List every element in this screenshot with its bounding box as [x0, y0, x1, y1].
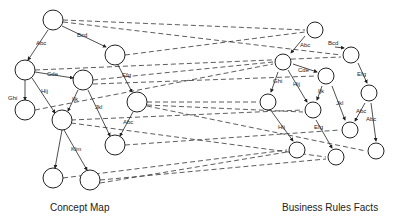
- fact-node[interactable]: [260, 94, 276, 110]
- fact-node[interactable]: [318, 68, 334, 84]
- fact-node[interactable]: [275, 54, 291, 70]
- edge-label: Abc: [123, 119, 133, 125]
- cross-links: [35, 20, 366, 183]
- edge-label: Efg: [122, 72, 131, 78]
- diagram-canvas: Abc Bcd Cde Efg Ghi Hij Ijk Jkl Abc Klm: [0, 0, 395, 222]
- fact-node[interactable]: [361, 85, 377, 101]
- edge-label: Efg: [357, 71, 366, 77]
- concept-map-caption: Concept Map: [50, 202, 109, 213]
- fact-node[interactable]: [343, 47, 359, 63]
- edge-label: Abc: [366, 116, 376, 122]
- concept-node[interactable]: [105, 135, 125, 155]
- concept-node[interactable]: [43, 10, 63, 30]
- edge-label: Cde: [298, 67, 310, 73]
- business-rules-facts-caption: Business Rules Facts: [282, 202, 378, 213]
- edge-label: Hij: [293, 81, 300, 87]
- edge-label: Hij: [278, 124, 285, 130]
- edge-label: Ghi: [8, 95, 17, 101]
- edge-label: Klm: [71, 146, 81, 152]
- fact-node[interactable]: [305, 102, 321, 118]
- fact-node[interactable]: [307, 22, 323, 38]
- edge-label: Jkl: [95, 104, 102, 110]
- edge-label: Abc: [300, 42, 310, 48]
- edge-label: Efg: [314, 124, 323, 130]
- concept-node[interactable]: [105, 45, 125, 65]
- edge-label: Bcd: [328, 40, 338, 46]
- edge-label: Abc: [356, 108, 366, 114]
- edge-label: Jkl: [336, 100, 343, 106]
- fact-node[interactable]: [342, 122, 358, 138]
- concept-node[interactable]: [73, 70, 93, 90]
- concept-node[interactable]: [15, 60, 35, 80]
- edge-label: Abc: [36, 40, 46, 46]
- edge-label: Cde: [47, 71, 59, 77]
- edge-label: Ghi: [273, 78, 282, 84]
- edge-label: Hij: [41, 88, 48, 94]
- right-graph-labels: Abc Bcd Cde Efg Ghi Hij Ijk Jkl Abc Abc …: [273, 40, 376, 130]
- concept-node[interactable]: [80, 170, 100, 190]
- fact-node[interactable]: [368, 143, 384, 159]
- fact-node[interactable]: [328, 149, 344, 165]
- concept-node[interactable]: [43, 168, 63, 188]
- edge-label: Ijk: [72, 96, 79, 102]
- concept-node[interactable]: [15, 100, 35, 120]
- concept-node[interactable]: [127, 92, 147, 112]
- concept-node[interactable]: [52, 110, 72, 130]
- edge-label: Bcd: [77, 32, 87, 38]
- edge-label: Ijk: [318, 88, 325, 94]
- fact-node[interactable]: [289, 142, 305, 158]
